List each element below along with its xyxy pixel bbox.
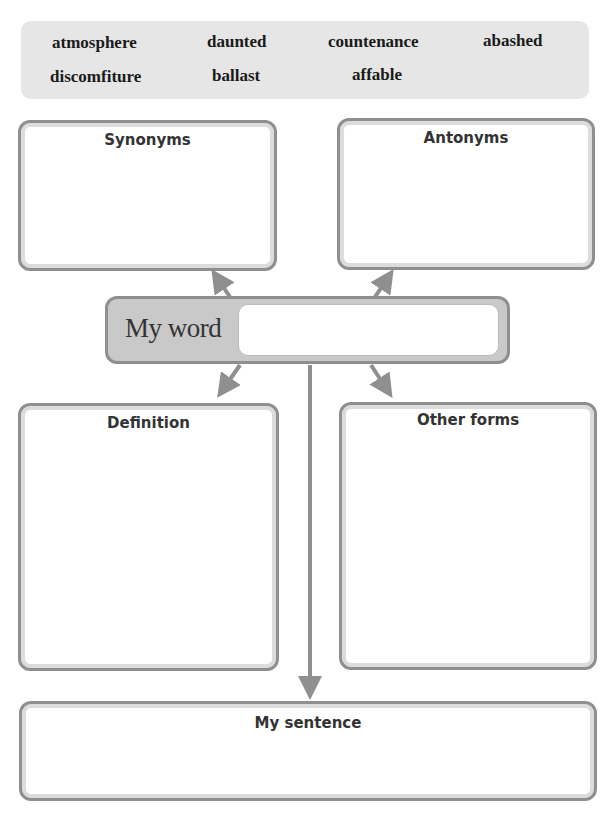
my-sentence-box[interactable]: My sentence <box>19 701 597 801</box>
arrow-to-other-forms-icon <box>371 365 386 388</box>
antonyms-box[interactable]: Antonyms <box>337 118 595 270</box>
synonyms-title: Synonyms <box>21 131 274 149</box>
arrow-to-definition-icon <box>224 365 240 388</box>
my-word-label: My word <box>125 313 221 344</box>
definition-title: Definition <box>21 414 276 432</box>
definition-box[interactable]: Definition <box>18 403 279 671</box>
arrow-to-synonyms-icon <box>218 279 230 297</box>
my-word-input[interactable] <box>238 304 499 356</box>
synonyms-box[interactable]: Synonyms <box>18 120 277 271</box>
arrow-to-antonyms-icon <box>375 279 387 297</box>
my-sentence-title: My sentence <box>22 714 594 732</box>
other-forms-box[interactable]: Other forms <box>339 402 597 670</box>
my-word-box: My word <box>105 296 510 364</box>
other-forms-title: Other forms <box>342 411 594 429</box>
antonyms-title: Antonyms <box>340 129 592 147</box>
